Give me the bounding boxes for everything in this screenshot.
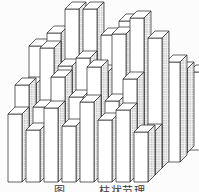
pillar-face <box>180 55 187 162</box>
pillar-face <box>148 125 155 182</box>
pillar-face <box>155 124 162 175</box>
pillar-face <box>162 31 169 168</box>
pillar-diagram <box>0 0 199 185</box>
pillar-face <box>187 62 194 153</box>
pillar-face <box>134 132 148 182</box>
figure-page: 图 柱状节理 <box>0 0 199 192</box>
pillar-face <box>8 114 22 182</box>
pillar-face <box>98 120 112 182</box>
caption-figure-label: 图 <box>54 186 66 192</box>
pillar-face <box>44 108 58 182</box>
pillar-face <box>80 102 94 182</box>
caption-text: 柱状节理 <box>99 186 145 192</box>
pillar-group <box>8 2 199 182</box>
pillar-face <box>26 130 40 182</box>
figure-caption: 图 柱状节理 <box>0 186 199 192</box>
pillar-face <box>116 110 130 182</box>
pillar-face <box>62 126 76 182</box>
